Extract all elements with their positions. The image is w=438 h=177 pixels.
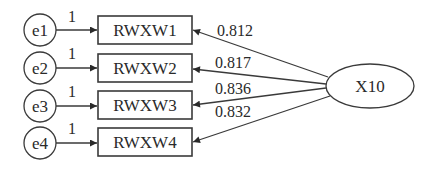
indicator-node-rwxw3: RWXW3 <box>98 91 192 119</box>
indicator-node-rwxw4: RWXW4 <box>98 128 192 156</box>
error-node-e1: e1 <box>24 14 56 46</box>
loading-path-rwxw3 <box>193 88 326 105</box>
loading-path-rwxw2 <box>193 69 326 84</box>
error-weight: 1 <box>68 120 76 137</box>
indicator-node-rwxw1: RWXW1 <box>98 16 192 44</box>
loading-value: 0.812 <box>217 22 253 39</box>
indicator-label: RWXW2 <box>113 59 176 78</box>
error-node-e3: e3 <box>24 90 56 122</box>
error-weight: 1 <box>68 45 76 62</box>
latent-node-x10: X10 <box>326 64 414 108</box>
error-label: e2 <box>32 59 48 78</box>
sem-diagram: e1 1 RWXW1 e2 1 RWXW2 e3 1 RWXW3 e4 1 RW… <box>0 0 438 177</box>
loading-value: 0.817 <box>215 54 251 71</box>
indicator-node-rwxw2: RWXW2 <box>98 54 192 82</box>
indicator-label: RWXW4 <box>113 133 177 152</box>
error-weight: 1 <box>68 83 76 100</box>
error-node-e4: e4 <box>24 127 56 159</box>
indicator-label: RWXW3 <box>113 96 176 115</box>
loading-value: 0.836 <box>215 80 251 97</box>
latent-label: X10 <box>355 77 384 96</box>
error-label: e3 <box>32 97 48 116</box>
error-weight: 1 <box>68 8 76 25</box>
error-label: e4 <box>32 134 49 153</box>
loading-path-rwxw1 <box>193 30 328 77</box>
error-label: e1 <box>32 21 48 40</box>
error-node-e2: e2 <box>24 52 56 84</box>
indicator-label: RWXW1 <box>113 21 176 40</box>
loading-value: 0.832 <box>215 103 251 120</box>
